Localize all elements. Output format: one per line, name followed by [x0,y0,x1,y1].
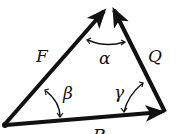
label-f: F [35,46,49,66]
label-beta: β [62,83,73,103]
angle-beta-arc [46,91,60,117]
force-triangle-diagram: F Q α β γ R [0,0,180,134]
label-alpha: α [99,48,111,68]
angle-alpha-arc [88,40,124,45]
vector-f-arrow [5,11,104,124]
angle-gamma-arc [124,83,143,112]
label-r: R [92,125,106,134]
label-gamma: γ [114,82,125,102]
label-q: Q [148,46,162,66]
vector-r-arrow [6,112,162,125]
